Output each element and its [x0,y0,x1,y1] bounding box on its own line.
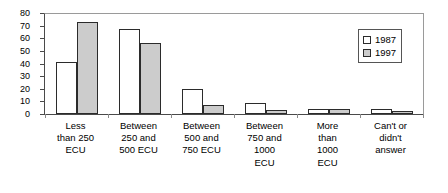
x-axis-tick-mark [45,114,46,118]
y-axis-tick-label: 0 [0,109,30,119]
bar-group [108,13,171,114]
x-axis-category-label-line: than [296,132,359,144]
y-axis-tick-label: 10 [0,96,30,106]
y-axis-tick-label: 60 [0,33,30,43]
y-axis-tick-mark [40,13,44,14]
bar-1997-2 [140,43,161,114]
x-axis-category-label-line: Between [233,120,296,132]
white-square-swatch [363,36,371,44]
legend-item-1987: 1987 [363,33,396,46]
legend: 19871997 [358,29,402,63]
x-axis-category-label-line: Can't or [359,120,422,132]
y-axis-tick-label: 40 [0,59,30,69]
y-axis-tick-label: 30 [0,71,30,81]
legend-label: 1997 [375,48,396,58]
bar-1987-3 [182,89,203,114]
x-axis-tick-mark [423,114,424,118]
x-axis-category-label: Between500 and750 ECU [170,120,233,157]
bar-chart: 80706050403020100 Lessthan 250ECUBetween… [0,0,448,193]
y-axis-tick-label: 50 [0,46,30,56]
x-axis-category-label-line: 500 and [170,132,233,144]
x-axis-tick-mark [360,114,361,118]
y-axis-tick-mark [40,64,44,65]
x-axis-category-label-line: 500 ECU [107,144,170,156]
x-axis-category-label-line: than 250 [44,132,107,144]
x-axis-category-label-line: Between [170,120,233,132]
bar-1997-1 [77,22,98,114]
x-axis-category-label: Between250 and500 ECU [107,120,170,157]
bar-group [171,13,234,114]
x-axis-tick-mark [234,114,235,118]
x-axis-category-label-line: ECU [44,144,107,156]
bar-1997-3 [203,105,224,114]
y-axis-tick-mark [40,51,44,52]
x-axis-category-label-line: 1000 [296,144,359,156]
x-axis-tick-mark [108,114,109,118]
y-axis-tick-mark [40,76,44,77]
bar-group [297,13,360,114]
x-axis-category-label: Can't ordidn'tanswer [359,120,422,157]
legend-label: 1987 [375,35,396,45]
bar-group [234,13,297,114]
x-axis-labels: Lessthan 250ECUBetween250 and500 ECUBetw… [44,120,424,190]
x-axis-category-label-line: 250 and [107,132,170,144]
y-axis-tick-mark [40,101,44,102]
y-axis-tick-mark [40,26,44,27]
x-axis-category-label: Between750 and1000ECU [233,120,296,169]
x-axis-category-label-line: didn't [359,132,422,144]
y-axis-tick-label: 20 [0,84,30,94]
x-axis-category-label: Morethan1000ECU [296,120,359,169]
legend-item-1997: 1997 [363,46,396,59]
bar-group [45,13,108,114]
x-axis-category-label-line: ECU [233,157,296,169]
x-axis-tick-mark [297,114,298,118]
x-axis-category-label-line: answer [359,144,422,156]
bar-1987-2 [119,29,140,114]
bar-1987-1 [56,62,77,114]
y-axis-tick-mark [40,89,44,90]
y-axis-tick-mark [40,38,44,39]
x-axis-category-label-line: More [296,120,359,132]
y-axis: 80706050403020100 [0,8,30,120]
y-axis-tick-label: 80 [0,8,30,18]
y-axis-tick-label: 70 [0,21,30,31]
x-axis-category-label: Lessthan 250ECU [44,120,107,157]
bar-1987-4 [245,103,266,114]
gray-square-swatch [363,49,371,57]
x-axis-category-label-line: 1000 [233,144,296,156]
x-axis-category-label-line: 750 and [233,132,296,144]
x-axis-category-label-line: ECU [296,157,359,169]
x-axis-category-label-line: 750 ECU [170,144,233,156]
x-axis-tick-mark [171,114,172,118]
x-axis-category-label-line: Less [44,120,107,132]
x-axis-category-label-line: Between [107,120,170,132]
